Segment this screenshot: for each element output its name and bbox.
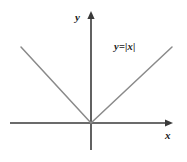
absolute-value-graph-figure: y x y=|x| — [0, 0, 187, 162]
equation-label: y=|x| — [114, 42, 136, 53]
y-axis-label: y — [75, 12, 80, 23]
equation-bar-close: | — [133, 41, 136, 52]
plot-canvas — [0, 0, 187, 162]
y-axis-arrowhead — [87, 11, 94, 19]
x-axis-arrowhead — [165, 119, 173, 126]
x-axis-label: x — [165, 130, 171, 141]
curve-left-branch — [21, 47, 91, 123]
curve-right-branch — [91, 47, 172, 123]
